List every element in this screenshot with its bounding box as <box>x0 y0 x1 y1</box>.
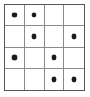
grid-cell-r3-c1[interactable] <box>5 48 25 69</box>
grid-cell-r2-c3[interactable] <box>45 26 65 47</box>
grid-cell-r2-c4[interactable] <box>64 26 84 47</box>
dot-icon <box>32 34 37 39</box>
grid-cell-r2-c1[interactable] <box>5 26 25 47</box>
puzzle-canvas <box>0 0 90 97</box>
grid-cell-r1-c4[interactable] <box>64 5 84 26</box>
grid-cell-r3-c4[interactable] <box>64 48 84 69</box>
grid-cell-r1-c1[interactable] <box>5 5 25 26</box>
grid-cell-r4-c1[interactable] <box>5 69 25 90</box>
dot-icon <box>12 13 17 18</box>
grid-cell-r4-c3[interactable] <box>45 69 65 90</box>
grid-cell-r2-c2[interactable] <box>25 26 45 47</box>
grid-cell-r4-c4[interactable] <box>64 69 84 90</box>
grid-cell-r1-c3[interactable] <box>45 5 65 26</box>
dot-grid[interactable] <box>4 4 85 91</box>
grid-cell-r1-c2[interactable] <box>25 5 45 26</box>
dot-icon <box>72 77 77 82</box>
grid-cell-r3-c2[interactable] <box>25 48 45 69</box>
dot-icon <box>12 55 17 60</box>
dot-icon <box>52 55 57 60</box>
grid-cell-r4-c2[interactable] <box>25 69 45 90</box>
dot-icon <box>52 77 57 82</box>
dot-icon <box>32 13 37 18</box>
grid-cell-r3-c3[interactable] <box>45 48 65 69</box>
dot-icon <box>72 34 77 39</box>
